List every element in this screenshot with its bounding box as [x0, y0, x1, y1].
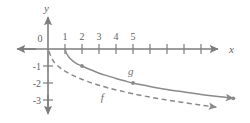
x-tick-label-4: 4 — [114, 31, 119, 42]
y-tick-label-minus3: -3 — [33, 95, 41, 106]
y-tick-label-minus1: -1 — [33, 61, 41, 72]
graph-figure: 1 2 3 4 5 -1 -2 -3 0 y x g f — [0, 0, 250, 123]
curve-g-point — [231, 96, 235, 100]
x-tick-label-1: 1 — [63, 31, 68, 42]
curve-f-label: f — [101, 91, 106, 103]
x-tick-label-5: 5 — [131, 31, 136, 42]
x-axis-label: x — [228, 43, 234, 55]
origin-label: 0 — [38, 33, 43, 44]
y-axis-label: y — [43, 2, 49, 14]
curve-g — [65, 49, 233, 98]
x-tick-labels: 1 2 3 4 5 — [63, 31, 136, 42]
curve-g-label: g — [128, 65, 134, 77]
y-tick-labels: -1 -2 -3 — [33, 61, 41, 106]
y-tick-label-minus2: -2 — [33, 78, 41, 89]
curve-f — [49, 51, 216, 107]
curve-g-point — [80, 64, 84, 68]
curve-g-point — [131, 81, 135, 85]
x-tick-label-2: 2 — [80, 31, 85, 42]
x-tick-label-3: 3 — [97, 31, 102, 42]
